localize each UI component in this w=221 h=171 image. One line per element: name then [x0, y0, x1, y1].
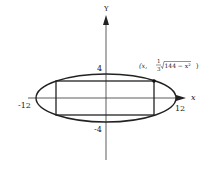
x-axis-arrow-icon: [176, 95, 186, 101]
point-label-radicand: 144 − x²: [165, 62, 192, 69]
tick-label-x-neg12: -12: [18, 101, 31, 110]
point-label-frac-den: 3: [157, 66, 161, 72]
corner-point: [152, 79, 156, 83]
tick-label-y-neg4: -4: [94, 125, 102, 134]
point-coordinate-label: (x, 1 3 144 − x² ): [139, 58, 199, 72]
tick-label-x-12: 12: [175, 104, 185, 113]
ellipse-rectangle-diagram: Y x 4 -4 -12 12 (x, 1 3 144 − x² ): [0, 0, 221, 171]
tick-label-y-4: 4: [97, 64, 102, 73]
y-axis-label: Y: [103, 5, 109, 13]
point-label-prefix: (x,: [139, 62, 147, 70]
point-label-suffix: ): [196, 62, 199, 70]
point-label-frac-num: 1: [157, 58, 161, 64]
x-axis-label: x: [191, 93, 196, 102]
y-axis-arrow-icon: [103, 15, 109, 25]
